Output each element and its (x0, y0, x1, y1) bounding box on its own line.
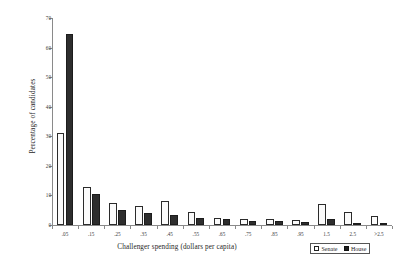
x-axis-title: Challenger spending (dollars per capita) (52, 243, 302, 251)
bar-house-.65 (223, 219, 231, 225)
x-axis-tick (340, 226, 341, 229)
legend-entry-senate: Senate (314, 246, 338, 252)
bar-house-.35 (144, 213, 152, 225)
x-axis-tick (130, 226, 131, 229)
bar-senate-.45 (161, 201, 169, 225)
legend-swatch-senate (314, 246, 319, 251)
bar-house-.15 (92, 194, 100, 225)
bar-senate-.75 (240, 219, 248, 225)
x-axis-tick (183, 226, 184, 229)
x-axis-line (52, 225, 392, 226)
bar-senate-.25 (109, 203, 117, 225)
bar-senate-.55 (188, 212, 196, 225)
bar-senate-1.5 (318, 204, 326, 225)
bar-house->2.5 (380, 223, 388, 225)
bar-senate-.35 (135, 206, 143, 225)
x-axis-tick (209, 226, 210, 229)
bar-senate-2.5 (344, 212, 352, 225)
y-axis-tick-label: 40 (11, 104, 51, 110)
legend-label-senate: Senate (322, 246, 338, 252)
y-axis-tick-label: 20 (11, 163, 51, 169)
x-axis-tick (392, 226, 393, 229)
x-axis-tick (366, 226, 367, 229)
x-axis-tick-label: >2.5 (362, 231, 396, 237)
bar-senate-.85 (266, 219, 274, 225)
legend-label-house: House (351, 246, 366, 252)
bar-house-.85 (275, 221, 283, 225)
y-axis-line (52, 18, 53, 226)
bar-senate-.15 (83, 187, 91, 225)
chart-figure: Percentage of candidates 010203040506070… (0, 0, 416, 272)
bar-house-2.5 (353, 223, 361, 225)
y-axis-tick-label: 30 (11, 133, 51, 139)
bar-senate->2.5 (371, 216, 379, 225)
bar-house-.45 (170, 215, 178, 225)
x-axis-tick (287, 226, 288, 229)
y-axis-tick-label: 60 (11, 45, 51, 51)
bar-house-.75 (249, 221, 257, 225)
y-axis-tick-label: 0 (11, 222, 51, 228)
x-axis-tick (235, 226, 236, 229)
x-axis-tick (104, 226, 105, 229)
x-axis-tick (261, 226, 262, 229)
x-axis-tick (314, 226, 315, 229)
y-axis-tick-label: 70 (11, 15, 51, 21)
bar-house-.95 (301, 222, 309, 225)
y-axis-title: Percentage of candidates (29, 36, 37, 196)
bar-senate-.65 (214, 218, 222, 225)
bar-house-.05 (66, 34, 74, 225)
x-axis-tick (52, 226, 53, 229)
bar-house-.25 (118, 210, 126, 225)
x-axis-tick (157, 226, 158, 229)
plot-area: 010203040506070 .05.15.25.35.45.55.65.75… (52, 18, 392, 226)
y-axis-tick-label: 50 (11, 74, 51, 80)
legend-swatch-house (344, 246, 349, 251)
x-axis-tick (78, 226, 79, 229)
legend-entry-house: House (344, 246, 367, 252)
bar-senate-.05 (57, 133, 65, 225)
bar-senate-.95 (292, 220, 300, 225)
chart-legend: Senate House (310, 243, 370, 254)
y-axis-tick-label: 10 (11, 192, 51, 198)
bar-house-1.5 (327, 219, 335, 225)
bar-house-.55 (196, 218, 204, 225)
